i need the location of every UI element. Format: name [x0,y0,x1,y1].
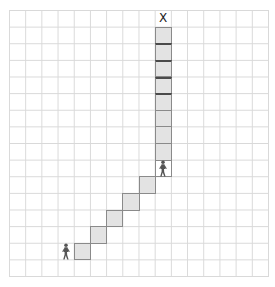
walking-person-icon [157,160,169,177]
path-cell [155,126,172,144]
path-cell [139,176,156,194]
path-cell [155,60,172,78]
path-cell [155,43,172,61]
path-cell [155,93,172,111]
grid-board [9,10,269,277]
path-cell [90,226,107,244]
path-cell [106,210,123,228]
path-cell [122,193,139,211]
path-cell [155,143,172,161]
path-cell [155,110,172,128]
path-cell [74,243,91,261]
path-cell [155,77,172,95]
goal-marker-x: X [155,10,172,27]
walking-person-icon [60,243,72,260]
path-cell [155,27,172,45]
